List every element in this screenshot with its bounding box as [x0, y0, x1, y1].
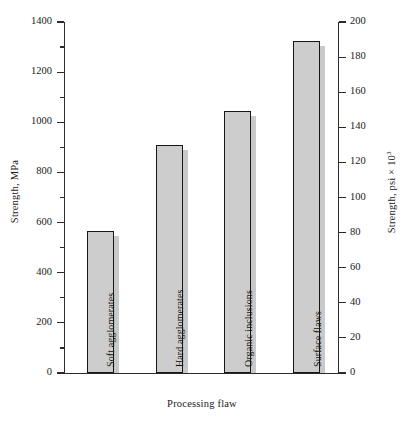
right-tick-label-140: 140: [350, 121, 366, 132]
right-tick-label-20: 20: [350, 332, 361, 343]
left-tick-400: [57, 272, 64, 273]
bar: Hard agglomerates: [156, 145, 189, 373]
left-minor-tick-300: [60, 297, 65, 298]
left-tick-1200: [57, 72, 64, 73]
right-tick-200: [339, 21, 346, 22]
left-tick-label-1000: 1000: [31, 116, 52, 127]
left-tick-1400: [57, 21, 64, 22]
bar-label: Surface flaws: [312, 311, 323, 367]
left-minor-tick-500: [60, 247, 65, 248]
right-tick-40: [339, 302, 346, 303]
right-tick-label-160: 160: [350, 86, 366, 97]
right-tick-label-80: 80: [350, 227, 361, 238]
left-tick-label-0: 0: [47, 367, 52, 378]
right-tick-60: [339, 267, 346, 268]
bar-label: Soft agglomerates: [105, 293, 116, 367]
right-tick-120: [339, 162, 346, 163]
left-tick-label-200: 200: [36, 317, 52, 328]
bar-label: Organic inclusions: [243, 290, 254, 367]
x-axis-title: Processing flaw: [0, 398, 404, 409]
right-tick-label-100: 100: [350, 192, 366, 203]
right-tick-label-120: 120: [350, 156, 366, 167]
bar: Surface flaws: [293, 41, 326, 373]
left-minor-tick-1100: [60, 97, 65, 98]
right-axis-title-text: Strength, psi × 10: [386, 155, 397, 233]
right-tick-160: [339, 92, 346, 93]
bar-chart: 1400120010008006004002000 20018016014012…: [0, 0, 404, 422]
right-tick-label-200: 200: [350, 16, 366, 27]
right-tick-100: [339, 197, 346, 198]
right-tick-0: [339, 372, 346, 373]
left-minor-tick-700: [60, 197, 65, 198]
bottom-axis-line: [64, 373, 339, 374]
right-tick-label-60: 60: [350, 262, 361, 273]
right-tick-140: [339, 127, 346, 128]
left-tick-600: [57, 222, 64, 223]
left-axis-title: Strength, MPa: [9, 142, 20, 242]
left-tick-label-400: 400: [36, 267, 52, 278]
left-tick-label-1200: 1200: [31, 66, 52, 77]
right-tick-label-0: 0: [350, 367, 355, 378]
bar: Organic inclusions: [224, 111, 257, 373]
right-axis-title: Strength, psi × 103: [385, 137, 398, 247]
right-tick-20: [339, 337, 346, 338]
right-axis-title-exponent: 3: [385, 151, 393, 155]
right-tick-80: [339, 232, 346, 233]
left-tick-200: [57, 322, 64, 323]
right-tick-label-180: 180: [350, 51, 366, 62]
left-minor-tick-900: [60, 147, 65, 148]
left-tick-label-600: 600: [36, 217, 52, 228]
left-tick-800: [57, 172, 64, 173]
bar-label: Hard agglomerates: [174, 289, 185, 367]
right-tick-label-40: 40: [350, 297, 361, 308]
bar: Soft agglomerates: [87, 231, 120, 373]
left-tick-label-800: 800: [36, 166, 52, 177]
left-axis-line: [64, 22, 65, 374]
left-tick-1000: [57, 122, 64, 123]
left-tick-0: [57, 372, 64, 373]
right-tick-180: [339, 57, 346, 58]
left-tick-label-1400: 1400: [31, 16, 52, 27]
left-minor-tick-100: [60, 347, 65, 348]
left-minor-tick-1300: [60, 46, 65, 47]
